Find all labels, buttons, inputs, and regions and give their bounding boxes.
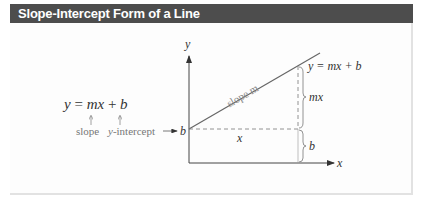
intercept-brace	[299, 130, 306, 162]
equation-text: y = mx + b	[62, 96, 128, 112]
run-label: x	[236, 131, 243, 145]
rise-brace	[299, 67, 306, 128]
line-slope-label: slope m	[224, 81, 260, 109]
point-label: y = mx + b	[307, 59, 362, 73]
y-axis-label: y	[184, 37, 191, 51]
slope-intercept-diagram: y = mx + b slope y-intercept b y x slope…	[0, 0, 423, 201]
intercept-height-label: b	[309, 139, 315, 153]
y-intercept-label: y-intercept	[107, 125, 155, 137]
slope-label: slope	[76, 125, 99, 137]
intercept-symbol: b	[180, 124, 186, 138]
x-axis-label: x	[336, 156, 343, 170]
rise-label: mx	[309, 90, 324, 104]
